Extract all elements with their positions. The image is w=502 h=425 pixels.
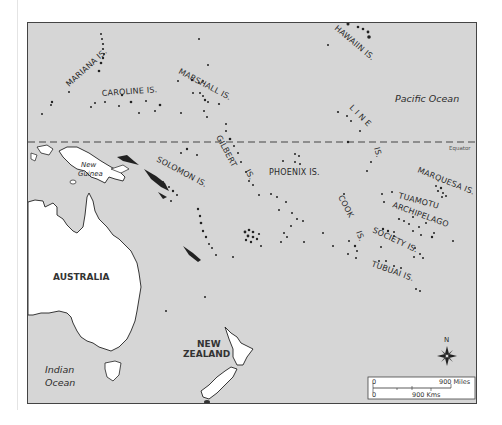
new-guinea-label-line1: New — [81, 161, 97, 169]
compass-rose — [437, 346, 457, 366]
new-zealand-label-line2: ZEALAND — [183, 349, 230, 359]
tubuai-islands-label: TUBUAI IS. — [369, 259, 415, 283]
new-guinea-label-line2: Guinea — [78, 170, 103, 178]
compass-north-label: N — [444, 336, 449, 344]
hawaiian-islands-label: HAWAIIN IS. — [333, 24, 377, 63]
scale-kms-start: 0 — [372, 391, 376, 399]
gilbert-islands-is-label: IS. — [243, 168, 256, 182]
cook-islands-label: COOK — [336, 194, 356, 220]
scale-bar: 0 900 Miles 0 900 Kms — [368, 377, 475, 399]
caroline-islands-label: CAROLINE IS. — [102, 85, 158, 98]
scale-miles-start: 0 — [372, 378, 376, 386]
gilbert-islands-label: GILBERT — [214, 134, 238, 169]
marquesa-islands-label: MARQUESA IS. — [416, 166, 476, 197]
new-zealand-label-line1: NEW — [197, 339, 221, 349]
phoenix-islands-label: PHOENIX IS. — [269, 168, 320, 177]
indian-ocean-label-line2: Ocean — [45, 377, 75, 388]
pacific-ocean-label: Pacific Ocean — [395, 93, 459, 104]
australia-label: AUSTRALIA — [53, 272, 110, 282]
pacific-map: Equator New Guinea AUSTRALIA NEW ZEALAND… — [27, 22, 477, 404]
line-islands-label: L I N E — [348, 103, 373, 128]
new-guinea — [31, 145, 129, 184]
equator-label: Equator — [449, 145, 471, 152]
indian-ocean-label-line1: Indian — [45, 364, 74, 375]
cook-islands-is-label: IS. — [354, 230, 366, 243]
society-islands-label: SOCIETY IS. — [371, 226, 419, 255]
scale-miles-end: 900 Miles — [439, 378, 471, 386]
tasmania — [105, 361, 121, 381]
marshall-islands-label: MARSHALL IS. — [177, 67, 233, 102]
line-islands-is-label: IS. — [372, 146, 383, 159]
page-margin-rule — [17, 0, 18, 410]
scale-kms-end: 900 Kms — [412, 391, 441, 399]
mariana-islands-label: MARIANA IS. — [64, 47, 109, 88]
